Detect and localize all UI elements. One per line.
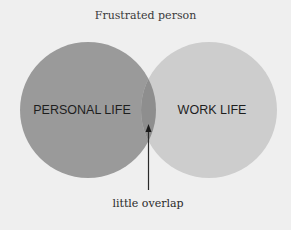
diagram-panel: Frustrated person PERSONAL LIFE WORK LIF…: [0, 0, 291, 230]
set-label-work-life: WORK LIFE: [178, 103, 247, 117]
set-label-personal-life: PERSONAL LIFE: [33, 103, 131, 117]
venn-diagram: PERSONAL LIFE WORK LIFE: [0, 0, 291, 230]
overlap-annotation: little overlap: [0, 197, 291, 210]
